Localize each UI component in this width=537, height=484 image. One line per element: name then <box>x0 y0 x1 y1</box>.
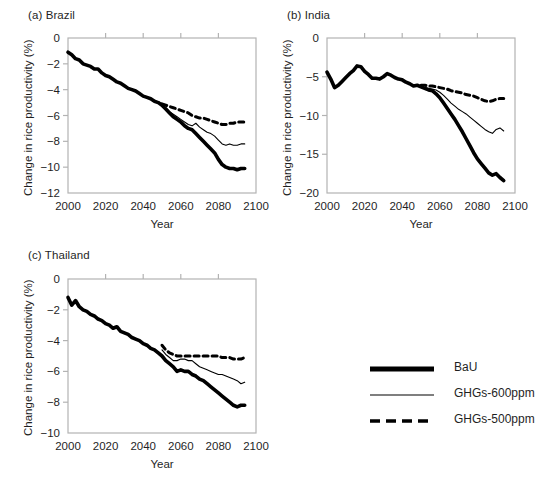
svg-text:−4: −4 <box>47 84 61 96</box>
svg-text:2020: 2020 <box>93 200 119 212</box>
svg-text:2060: 2060 <box>427 200 453 212</box>
rice-productivity-figure: (a) Brazil Change in rice productivity (… <box>0 0 537 484</box>
svg-text:2060: 2060 <box>168 440 194 452</box>
plot-area-india: 2000202020402060208021000−5−10−15−20 <box>265 0 537 240</box>
svg-text:2080: 2080 <box>465 200 491 212</box>
legend-label-ghgs-600ppm: GHGs-600ppm <box>454 386 535 400</box>
svg-text:−20: −20 <box>299 187 319 199</box>
svg-text:2020: 2020 <box>352 200 378 212</box>
svg-text:−6: −6 <box>47 110 60 122</box>
svg-text:2000: 2000 <box>55 200 81 212</box>
svg-text:0: 0 <box>54 32 60 44</box>
svg-text:2000: 2000 <box>314 200 340 212</box>
legend: BaU GHGs-600ppm GHGs-500ppm <box>368 358 533 436</box>
svg-text:−12: −12 <box>40 187 60 199</box>
panel-thailand: (c) Thailand Change in rice productivity… <box>0 243 270 484</box>
svg-text:−2: −2 <box>47 304 60 316</box>
svg-text:2060: 2060 <box>168 200 194 212</box>
svg-text:−10: −10 <box>299 110 319 122</box>
svg-text:2100: 2100 <box>243 440 269 452</box>
x-axis-label-thailand: Year <box>68 458 256 470</box>
panel-india: (b) India Change in rice productivity (%… <box>265 0 537 240</box>
legend-item-bau: BaU <box>368 358 533 384</box>
svg-text:2040: 2040 <box>130 200 156 212</box>
plot-area-thailand: 2000202020402060208021000−2−4−6−8−10 <box>0 243 270 484</box>
legend-label-ghgs-500ppm: GHGs-500ppm <box>454 412 535 426</box>
plot-area-brazil: 2000202020402060208021000−2−4−6−8−10−12 <box>0 0 270 240</box>
x-axis-label-india: Year <box>327 218 515 230</box>
svg-text:−10: −10 <box>40 427 60 439</box>
svg-text:0: 0 <box>54 273 60 285</box>
svg-text:2040: 2040 <box>130 440 156 452</box>
svg-text:−15: −15 <box>299 148 319 160</box>
svg-text:2020: 2020 <box>93 440 119 452</box>
svg-text:−4: −4 <box>47 335 61 347</box>
svg-text:−8: −8 <box>47 135 60 147</box>
svg-text:−2: −2 <box>47 58 60 70</box>
svg-text:−10: −10 <box>40 161 60 173</box>
svg-text:2040: 2040 <box>389 200 415 212</box>
svg-text:0: 0 <box>313 32 319 44</box>
x-axis-label-brazil: Year <box>68 218 256 230</box>
svg-text:−8: −8 <box>47 396 60 408</box>
svg-text:−6: −6 <box>47 365 60 377</box>
legend-item-ghgs-500ppm: GHGs-500ppm <box>368 410 533 436</box>
svg-text:2080: 2080 <box>206 200 232 212</box>
legend-swatch-thin-solid <box>368 384 446 406</box>
svg-text:2000: 2000 <box>55 440 81 452</box>
panel-brazil: (a) Brazil Change in rice productivity (… <box>0 0 270 240</box>
legend-item-ghgs-600ppm: GHGs-600ppm <box>368 384 533 410</box>
svg-text:2080: 2080 <box>206 440 232 452</box>
legend-swatch-dashed <box>368 410 446 432</box>
legend-swatch-thick-solid <box>368 358 446 380</box>
svg-text:−5: −5 <box>306 71 319 83</box>
svg-text:2100: 2100 <box>502 200 528 212</box>
legend-label-bau: BaU <box>454 360 477 374</box>
